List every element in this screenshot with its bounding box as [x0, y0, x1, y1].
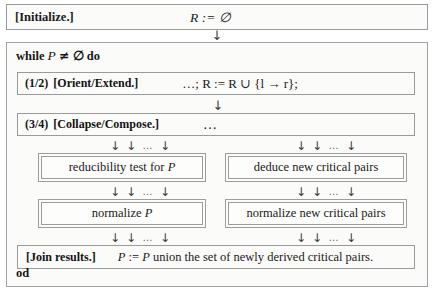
- down-arrow-icon: ↓: [157, 186, 173, 198]
- process-box-label: deduce new critical pairs: [254, 160, 379, 175]
- process-box-label: normalize P: [92, 206, 153, 221]
- ellipsis: …: [325, 187, 343, 197]
- arrow-cluster-right-2: ↓ ↓ … ↓: [271, 184, 381, 199]
- arrow-cluster-left-1: ↓ ↓ … ↓: [85, 138, 195, 153]
- down-arrow-icon: ↓: [293, 140, 309, 152]
- initialize-step-box: [Initialize.] R := ∅: [6, 4, 428, 30]
- down-arrow-icon: ↓: [107, 232, 123, 244]
- collapse-compose-formula: …: [203, 117, 217, 133]
- orient-extend-formula: …; R := R ∪ {l → r};: [182, 76, 298, 92]
- process-box-reducibility-test: reducibility test for P: [38, 153, 206, 182]
- down-arrow-icon: ↓: [123, 140, 139, 152]
- down-arrow-icon: ↓: [293, 186, 309, 198]
- down-arrow-icon: ↓: [293, 232, 309, 244]
- od-keyword: od: [16, 266, 29, 281]
- connector-arrow-orient-to-collapse: ↓: [211, 99, 225, 112]
- process-box-deduce-critical-pairs: deduce new critical pairs: [225, 153, 407, 182]
- down-arrow-icon: ↓: [123, 186, 139, 198]
- process-box-inner: deduce new critical pairs: [228, 156, 404, 179]
- completion-procedure-figure: [Initialize.] R := ∅ ↓ while P ≠ ∅ do (1…: [0, 0, 434, 291]
- while-condition-relation: ≠: [59, 48, 69, 63]
- join-results-box: [Join results.] P := P union the set of …: [17, 245, 415, 269]
- down-arrow-icon: ↓: [343, 140, 359, 152]
- arrow-cluster-right-3: ↓ ↓ … ↓: [271, 230, 381, 245]
- while-condition-value: ∅: [73, 48, 84, 63]
- initialize-formula: R := ∅: [74, 9, 419, 26]
- down-arrow-icon: ↓: [123, 232, 139, 244]
- join-results-formula: P := P union the set of newly derived cr…: [118, 250, 373, 265]
- while-loop-block: while P ≠ ∅ do (1/2) [Orient/Extend.] …;…: [6, 42, 428, 287]
- down-arrow-icon: ↓: [107, 140, 123, 152]
- down-arrow-icon: ↓: [309, 232, 325, 244]
- connector-arrow-initialize-to-while: ↓: [210, 29, 224, 42]
- do-keyword: do: [87, 49, 100, 63]
- collapse-compose-step-number: (3/4): [25, 117, 48, 132]
- collapse-compose-step-box: (3/4) [Collapse/Compose.] …: [17, 113, 415, 136]
- down-arrow-icon: ↓: [157, 232, 173, 244]
- while-condition-variable: P: [48, 48, 56, 63]
- arrow-cluster-right-1: ↓ ↓ … ↓: [271, 138, 381, 153]
- process-box-inner: reducibility test for P: [41, 156, 203, 179]
- ellipsis: …: [139, 187, 157, 197]
- process-box-inner: normalize P: [41, 202, 203, 225]
- process-box-inner: normalize new critical pairs: [228, 202, 404, 225]
- process-box-label: normalize new critical pairs: [246, 206, 385, 221]
- while-keyword: while: [16, 49, 44, 63]
- initialize-label: [Initialize.]: [15, 10, 74, 25]
- join-results-label: [Join results.]: [26, 250, 96, 265]
- ellipsis: …: [139, 233, 157, 243]
- ellipsis: …: [139, 141, 157, 151]
- down-arrow-icon: ↓: [107, 186, 123, 198]
- down-arrow-icon: ↓: [309, 140, 325, 152]
- process-box-normalize-critical-pairs: normalize new critical pairs: [225, 199, 407, 228]
- process-box-label: reducibility test for P: [69, 160, 176, 175]
- down-arrow-icon: ↓: [309, 186, 325, 198]
- ellipsis: …: [325, 233, 343, 243]
- down-arrow-icon: ↓: [157, 140, 173, 152]
- collapse-compose-label: [Collapse/Compose.]: [53, 117, 159, 132]
- down-arrow-icon: ↓: [343, 186, 359, 198]
- down-arrow-icon: ↓: [343, 232, 359, 244]
- orient-extend-label: [Orient/Extend.]: [53, 76, 138, 91]
- process-box-normalize-p: normalize P: [38, 199, 206, 228]
- arrow-cluster-left-2: ↓ ↓ … ↓: [85, 184, 195, 199]
- while-loop-header: while P ≠ ∅ do: [16, 48, 100, 64]
- ellipsis: …: [325, 141, 343, 151]
- orient-extend-step-number: (1/2): [25, 76, 48, 91]
- orient-extend-step-box: (1/2) [Orient/Extend.] …; R := R ∪ {l → …: [17, 72, 415, 95]
- arrow-cluster-left-3: ↓ ↓ … ↓: [85, 230, 195, 245]
